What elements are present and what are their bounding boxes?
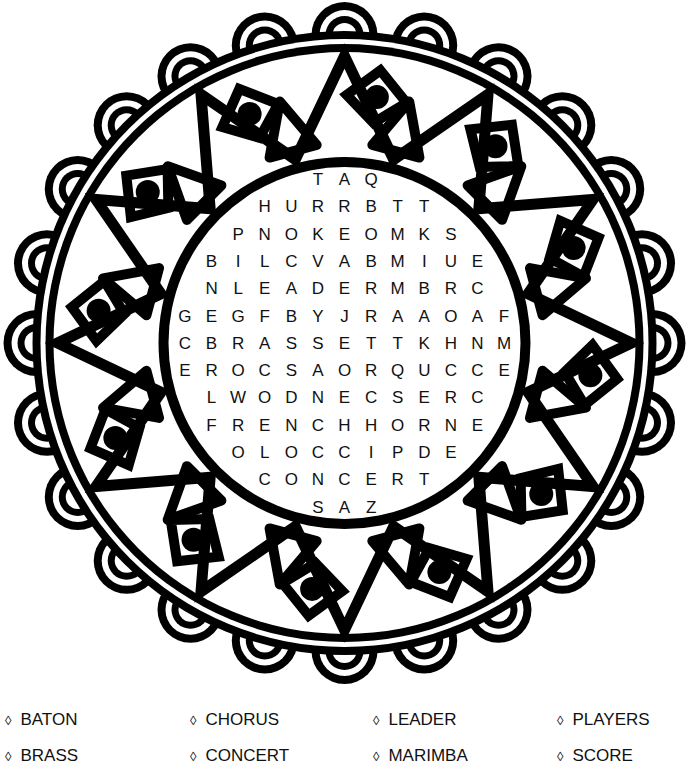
grid-letter[interactable]: Q <box>384 361 411 381</box>
grid-letter[interactable]: G <box>225 307 252 327</box>
grid-letter[interactable]: P <box>225 225 252 245</box>
grid-letter[interactable]: A <box>384 307 411 327</box>
grid-letter[interactable]: E <box>251 279 278 299</box>
grid-letter[interactable]: O <box>358 225 385 245</box>
grid-letter[interactable]: C <box>438 361 465 381</box>
grid-letter[interactable]: I <box>358 443 385 463</box>
grid-letter[interactable]: O <box>251 388 278 408</box>
grid-letter[interactable]: C <box>251 361 278 381</box>
grid-letter[interactable]: C <box>172 334 199 354</box>
grid-letter[interactable]: Y <box>305 307 332 327</box>
grid-letter[interactable]: A <box>331 498 358 518</box>
grid-letter[interactable]: E <box>331 279 358 299</box>
grid-letter[interactable]: C <box>305 443 332 463</box>
grid-letter[interactable]: C <box>251 470 278 490</box>
grid-letter[interactable]: F <box>491 307 518 327</box>
grid-letter[interactable]: H <box>358 416 385 436</box>
grid-letter[interactable]: E <box>438 443 465 463</box>
grid-letter[interactable]: S <box>305 334 332 354</box>
grid-letter[interactable]: L <box>251 252 278 272</box>
grid-letter[interactable]: E <box>464 252 491 272</box>
grid-letter[interactable]: Q <box>358 170 385 190</box>
grid-letter[interactable]: R <box>225 416 252 436</box>
grid-letter[interactable]: N <box>278 416 305 436</box>
grid-letter[interactable]: F <box>198 416 225 436</box>
grid-letter[interactable]: K <box>411 334 438 354</box>
grid-letter[interactable]: A <box>331 252 358 272</box>
grid-letter[interactable]: C <box>305 416 332 436</box>
grid-letter[interactable]: A <box>305 361 332 381</box>
grid-letter[interactable]: H <box>331 416 358 436</box>
grid-letter[interactable]: E <box>172 361 199 381</box>
grid-letter[interactable]: S <box>278 334 305 354</box>
grid-letter[interactable]: U <box>411 361 438 381</box>
grid-letter[interactable]: F <box>251 307 278 327</box>
grid-letter[interactable]: V <box>305 252 332 272</box>
grid-letter[interactable]: A <box>464 307 491 327</box>
grid-letter[interactable]: B <box>358 197 385 217</box>
grid-letter[interactable]: N <box>305 388 332 408</box>
grid-letter[interactable]: R <box>225 334 252 354</box>
grid-letter[interactable]: T <box>411 197 438 217</box>
grid-letter[interactable]: C <box>464 361 491 381</box>
grid-letter[interactable]: S <box>278 361 305 381</box>
grid-letter[interactable]: E <box>464 416 491 436</box>
grid-letter[interactable]: W <box>225 388 252 408</box>
grid-letter[interactable]: U <box>438 252 465 272</box>
grid-letter[interactable]: L <box>225 279 252 299</box>
grid-letter[interactable]: N <box>198 279 225 299</box>
grid-letter[interactable]: H <box>251 197 278 217</box>
grid-letter[interactable]: T <box>358 334 385 354</box>
grid-letter[interactable]: I <box>225 252 252 272</box>
grid-letter[interactable]: T <box>305 170 332 190</box>
grid-letter[interactable]: N <box>438 416 465 436</box>
grid-letter[interactable]: J <box>331 307 358 327</box>
grid-letter[interactable]: M <box>491 334 518 354</box>
grid-letter[interactable]: M <box>384 279 411 299</box>
grid-letter[interactable]: T <box>411 470 438 490</box>
grid-letter[interactable]: U <box>278 197 305 217</box>
grid-letter[interactable]: B <box>198 252 225 272</box>
grid-letter[interactable]: L <box>251 443 278 463</box>
grid-letter[interactable]: R <box>358 361 385 381</box>
grid-letter[interactable]: C <box>278 252 305 272</box>
grid-letter[interactable]: E <box>358 470 385 490</box>
grid-letter[interactable]: O <box>278 225 305 245</box>
grid-letter[interactable]: G <box>172 307 199 327</box>
grid-letter[interactable]: R <box>331 197 358 217</box>
grid-letter[interactable]: P <box>384 443 411 463</box>
grid-letter[interactable]: E <box>491 361 518 381</box>
grid-letter[interactable]: C <box>331 443 358 463</box>
grid-letter[interactable]: O <box>331 361 358 381</box>
grid-letter[interactable]: O <box>278 470 305 490</box>
grid-letter[interactable]: L <box>198 388 225 408</box>
grid-letter[interactable]: C <box>358 388 385 408</box>
grid-letter[interactable]: E <box>198 307 225 327</box>
grid-letter[interactable]: C <box>331 470 358 490</box>
grid-letter[interactable]: M <box>384 225 411 245</box>
grid-letter[interactable]: S <box>384 388 411 408</box>
grid-letter[interactable]: E <box>331 225 358 245</box>
grid-letter[interactable]: O <box>438 307 465 327</box>
grid-letter[interactable]: D <box>305 279 332 299</box>
grid-letter[interactable]: D <box>411 443 438 463</box>
grid-letter[interactable]: R <box>358 307 385 327</box>
grid-letter[interactable]: B <box>198 334 225 354</box>
grid-letter[interactable]: B <box>278 307 305 327</box>
grid-letter[interactable]: S <box>305 498 332 518</box>
grid-letter[interactable]: R <box>358 279 385 299</box>
grid-letter[interactable]: I <box>411 252 438 272</box>
grid-letter[interactable]: S <box>438 225 465 245</box>
grid-letter[interactable]: N <box>464 334 491 354</box>
grid-letter[interactable]: A <box>331 170 358 190</box>
grid-letter[interactable]: C <box>464 279 491 299</box>
grid-letter[interactable]: B <box>358 252 385 272</box>
grid-letter[interactable]: D <box>278 388 305 408</box>
grid-letter[interactable]: A <box>411 307 438 327</box>
grid-letter[interactable]: E <box>331 388 358 408</box>
grid-letter[interactable]: A <box>278 279 305 299</box>
grid-letter[interactable]: O <box>278 443 305 463</box>
grid-letter[interactable]: R <box>384 470 411 490</box>
grid-letter[interactable]: T <box>384 334 411 354</box>
grid-letter[interactable]: O <box>225 361 252 381</box>
